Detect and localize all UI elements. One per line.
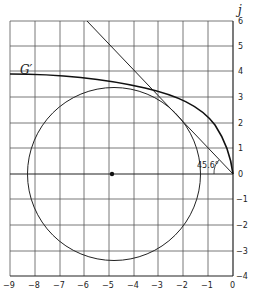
- nyquist-diagram: G′ j 45.6° −9 −8 −7 −6 −5 −4 −3 −2 −1 0 …: [0, 0, 256, 295]
- svg-text:0: 0: [230, 281, 235, 290]
- grid: [10, 21, 233, 276]
- svg-text:−2: −2: [176, 281, 188, 290]
- svg-text:−2: −2: [236, 221, 248, 230]
- svg-text:−3: −3: [151, 281, 163, 290]
- svg-text:2: 2: [238, 119, 243, 128]
- svg-text:0: 0: [238, 170, 243, 179]
- svg-text:−4: −4: [127, 281, 139, 290]
- axes: [10, 21, 233, 276]
- svg-text:−7: −7: [53, 281, 65, 290]
- svg-text:−3: −3: [236, 247, 248, 256]
- svg-text:−5: −5: [102, 281, 114, 290]
- svg-text:−4: −4: [236, 272, 248, 281]
- svg-text:−8: −8: [28, 281, 40, 290]
- circle-center-dot: [110, 172, 114, 176]
- svg-text:−6: −6: [77, 281, 89, 290]
- svg-text:3: 3: [238, 93, 243, 102]
- y-tick-labels: 6 5 4 3 2 1 0 −1 −2 −3 −4: [236, 17, 248, 281]
- svg-text:−1: −1: [201, 281, 213, 290]
- angle-label: 45.6°: [197, 161, 219, 170]
- svg-text:−1: −1: [236, 195, 248, 204]
- svg-text:−9: −9: [3, 281, 15, 290]
- svg-text:4: 4: [238, 67, 243, 76]
- x-tick-labels: −9 −8 −7 −6 −5 −4 −3 −2 −1 0: [3, 281, 235, 290]
- curve-label: G′: [20, 63, 33, 77]
- y-axis-label: j: [235, 3, 242, 17]
- svg-text:1: 1: [238, 144, 243, 153]
- svg-text:5: 5: [238, 42, 243, 51]
- svg-text:6: 6: [238, 17, 243, 26]
